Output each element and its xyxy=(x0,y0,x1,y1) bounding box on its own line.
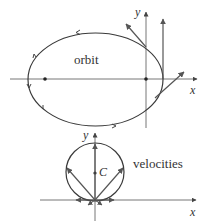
velocity-arrow xyxy=(126,24,146,47)
x-axis-label: x xyxy=(190,206,195,218)
orbit-direction-arrow xyxy=(40,105,43,109)
x-axis-label: x xyxy=(190,84,195,96)
focus-left-dot xyxy=(43,77,47,81)
orbit-direction-arrow xyxy=(76,30,80,35)
velocity-arrow xyxy=(67,168,95,200)
orbit-diagram xyxy=(10,12,197,128)
velocities-diagram xyxy=(40,133,196,221)
y-axis-label: y xyxy=(83,129,88,141)
orbit-label: orbit xyxy=(74,53,99,66)
velocity-arrow xyxy=(155,72,184,98)
orbit-velocity-diagram: orbit x y velocities C x y xyxy=(0,0,205,221)
y-axis-label: y xyxy=(135,6,140,18)
center-label: C xyxy=(99,166,107,178)
velocities-label: velocities xyxy=(133,157,183,170)
focus-right-dot xyxy=(144,77,148,81)
diagram-canvas xyxy=(0,0,205,221)
